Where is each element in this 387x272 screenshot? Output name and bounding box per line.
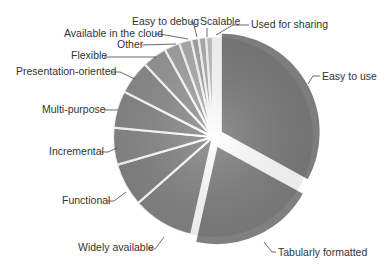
label-widely-available: Widely available bbox=[78, 241, 154, 253]
label-incremental: Incremental bbox=[49, 145, 104, 157]
pie-chart: Easy to useTabularly formattedWidely ava… bbox=[0, 0, 387, 272]
label-used-for-sharing: Used for sharing bbox=[251, 18, 328, 30]
label-presentation-oriented: Presentation-oriented bbox=[16, 65, 117, 77]
label-tabularly-formatted: Tabularly formatted bbox=[278, 246, 367, 258]
leader-line-other bbox=[142, 44, 176, 45]
label-scalable: Scalable bbox=[200, 15, 240, 27]
pie-slices bbox=[113, 32, 321, 245]
label-easy-to-use: Easy to use bbox=[322, 70, 377, 82]
label-available-in-the-cloud: Available in the cloud bbox=[64, 27, 163, 39]
label-functional: Functional bbox=[62, 194, 110, 206]
label-easy-to-debug: Easy to debug bbox=[132, 15, 199, 27]
leader-line-tabularly-formatted bbox=[264, 242, 276, 252]
label-other: Other bbox=[117, 38, 144, 50]
label-multi-purpose: Multi-purpose bbox=[42, 103, 106, 115]
leader-line-easy-to-use bbox=[308, 76, 320, 84]
label-flexible: Flexible bbox=[71, 49, 107, 61]
